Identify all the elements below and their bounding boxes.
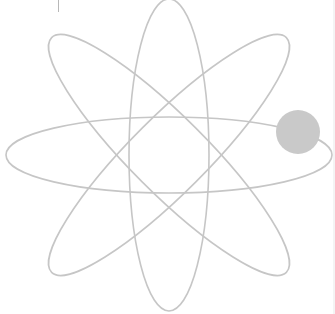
electron-ball [276,110,320,154]
vertical-orbit [129,0,209,311]
diagonal-orbit-1 [25,11,313,299]
edge-mark [58,0,59,12]
atom-illustration: atom symbol [0,0,335,314]
atom-icon [0,0,335,314]
diagonal-orbit-2 [25,11,313,299]
